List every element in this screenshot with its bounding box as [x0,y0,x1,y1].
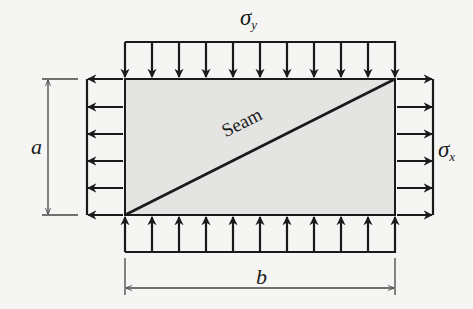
left-load-sigma-x [87,79,123,215]
top-load-sigma-y [125,42,396,77]
dimension-a-label: a [31,136,42,158]
dimension-a [42,79,78,215]
sigma-y-label: σy [240,6,257,31]
diagram-graphics [0,0,473,309]
bottom-load-sigma-y [125,217,396,252]
right-load-sigma-x [397,79,433,215]
diagram-canvas: σy σx a b Seam [0,0,473,309]
dimension-b-label: b [256,266,267,288]
sigma-x-label: σx [438,138,455,163]
